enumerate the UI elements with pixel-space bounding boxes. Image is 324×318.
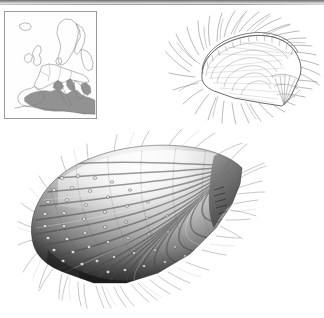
distribution-map-panel: Europe distribution map [4,11,97,119]
scan-edge-line [0,4,324,5]
umbo [209,149,271,228]
shaded-drawing-svg [18,120,324,318]
illustration-plate: Europe distribution map [0,0,324,318]
shaded-drawing-panel: Shaded graphite drawing of shell [18,120,324,318]
line-drawing-panel: Shell line drawing with bristles [162,6,324,128]
shell-body [31,145,270,292]
line-drawing-svg [162,6,324,128]
distribution-map-svg [5,12,96,118]
